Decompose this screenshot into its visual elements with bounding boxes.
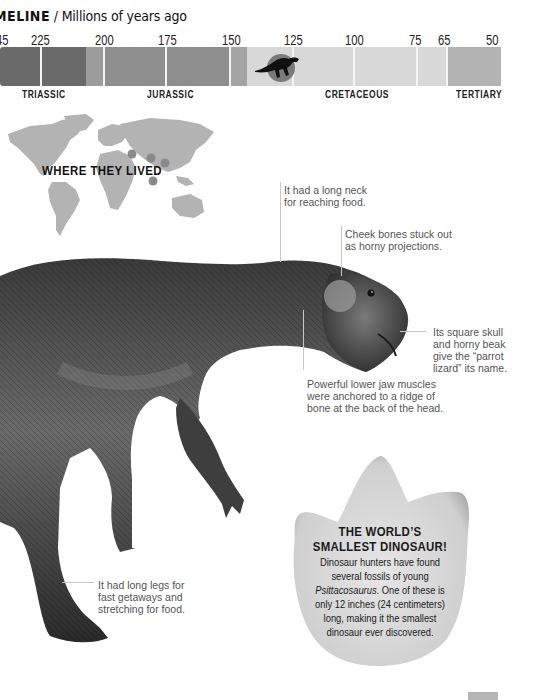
fact-body-species: Psittacosaurus	[315, 584, 376, 596]
period-label-triassic: TRIASSIC	[22, 89, 66, 100]
timeline-tick-45: 45	[0, 32, 8, 48]
map-title: WHERE THEY LIVED	[42, 163, 162, 178]
dinosaur-marker-icon	[253, 51, 303, 83]
callout-neck: It had a long neck for reaching food.	[284, 184, 367, 208]
divider-75	[416, 47, 418, 86]
leader-jaw	[303, 310, 304, 370]
segment-triassic	[0, 47, 86, 86]
divider-100	[353, 47, 355, 86]
timeline-tick-65: 65	[438, 32, 450, 48]
divider-65	[446, 47, 448, 86]
period-label-jurassic: JURASSIC	[147, 89, 194, 100]
timeline-bar	[0, 47, 501, 86]
timeline-subtitle: / Millions of years ago	[50, 8, 187, 24]
callout-legs: It had long legs for fast getaways and s…	[98, 579, 185, 615]
timeline-tick-75: 75	[409, 32, 421, 48]
world-map	[0, 112, 230, 247]
callout-cheek: Cheek bones stuck out as horny projectio…	[345, 228, 452, 252]
period-label-tertiary: TERTIARY	[456, 89, 502, 100]
fact-title-line2: SMALLEST DINOSAUR!	[310, 539, 451, 554]
timeline-tick-200: 200	[95, 32, 114, 48]
divider-225	[40, 47, 42, 86]
timeline-title-bold: MELINE	[0, 8, 50, 24]
timeline-tick-50: 50	[486, 32, 498, 48]
fact-body-start: Dinosaur hunters have found several foss…	[320, 556, 440, 582]
timeline-tick-150: 150	[222, 32, 241, 48]
divider-200	[103, 47, 105, 86]
timeline-tick-225: 225	[31, 32, 50, 48]
timeline-tick-175: 175	[158, 32, 177, 48]
callout-jaw: Powerful lower jaw muscles were anchored…	[307, 378, 443, 414]
segment-tertiary	[447, 47, 501, 86]
leader-neck	[280, 182, 281, 262]
leader-skull	[400, 331, 426, 332]
segment-jurassic	[104, 47, 230, 86]
callout-skull: Its square skull and horny beak give the…	[433, 326, 507, 374]
segment-early-jurassic	[86, 47, 104, 86]
timeline-tick-100: 100	[345, 32, 364, 48]
timeline-tick-125: 125	[284, 32, 303, 48]
leader-legs	[62, 582, 94, 583]
fact-body: Dinosaur hunters have found several foss…	[312, 555, 448, 639]
timeline-title: MELINE / Millions of years ago	[0, 8, 187, 24]
page-corner-tab	[468, 692, 498, 700]
leader-cheek	[341, 226, 342, 276]
divider-175	[165, 47, 167, 86]
divider-150	[229, 47, 231, 86]
footprint-fact-box: THE WORLD’S SMALLEST DINOSAUR! Dinosaur …	[300, 524, 460, 639]
period-label-cretaceous: CRETACEOUS	[325, 89, 389, 100]
segment-late-jurassic	[230, 47, 247, 86]
fact-title-line1: THE WORLD’S	[310, 524, 451, 539]
